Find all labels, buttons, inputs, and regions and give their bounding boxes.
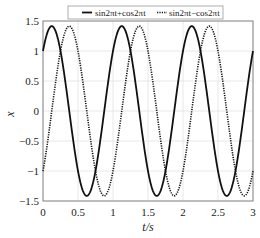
y-tick-label: 1.5 (25, 15, 39, 27)
legend-item-diff: sin2πt−cos2πt (169, 8, 220, 18)
legend-item-sum: sin2πt+cos2πt (95, 8, 146, 18)
x-tick-label: 3 (250, 206, 256, 218)
line-chart: 00.511.522.53 1.510.50−0.5−1−1.5 t/s x s… (0, 0, 260, 238)
x-tick-label: 2.5 (211, 206, 225, 218)
x-axis-ticks: 00.511.522.53 (40, 206, 256, 218)
y-tick-label: −1.5 (19, 195, 39, 207)
x-tick-label: 1.5 (141, 206, 155, 218)
y-axis-ticks: 1.510.50−0.5−1−1.5 (19, 15, 39, 207)
y-tick-label: −0.5 (19, 135, 39, 147)
y-tick-label: 0 (34, 105, 40, 117)
y-tick-label: 0.5 (25, 75, 39, 87)
x-tick-label: 2 (180, 206, 186, 218)
y-axis-label: x (3, 111, 17, 118)
y-tick-label: −1 (27, 165, 39, 177)
x-tick-label: 0 (40, 206, 46, 218)
x-tick-label: 0.5 (71, 206, 85, 218)
y-tick-label: 1 (34, 45, 40, 57)
legend: sin2πt+cos2πt sin2πt−cos2πt (68, 6, 223, 19)
x-tick-label: 1 (110, 206, 116, 218)
x-axis-label: t/s (142, 220, 154, 234)
